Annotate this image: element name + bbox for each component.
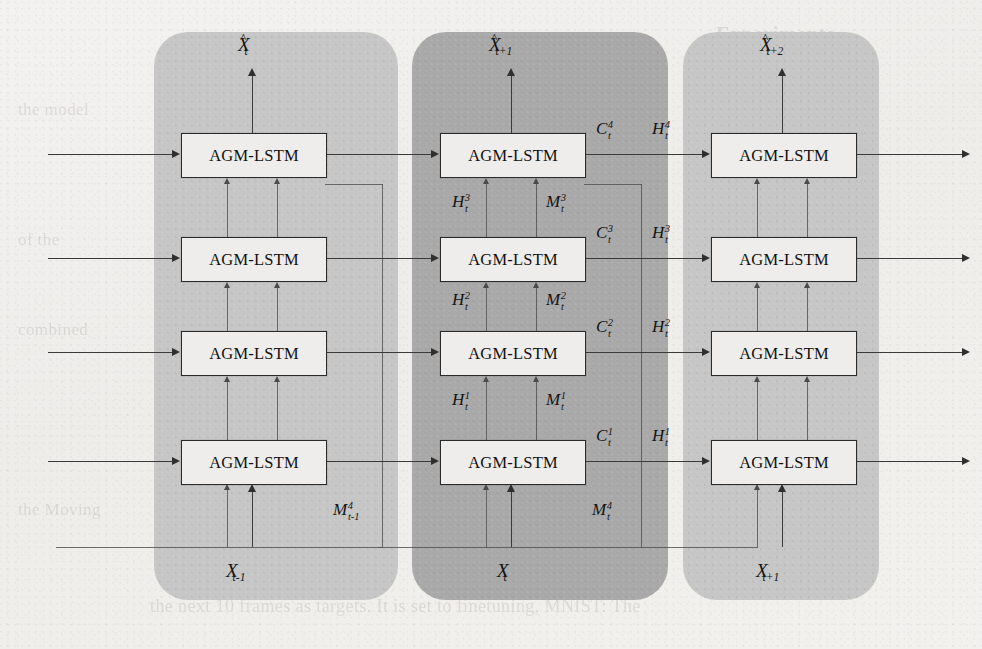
hidden-label-t-1: H1t (452, 390, 468, 412)
input-wire-layer-1 (48, 461, 174, 462)
output-wire-t-plus-2 (782, 72, 783, 133)
cell-t-layer-4[interactable]: AGM-LSTM (440, 133, 586, 178)
output-wire-l1-right (855, 461, 965, 462)
carry-wire-l2-p1-p2 (325, 352, 433, 353)
cell-t-plus-1-layer-1[interactable]: AGM-LSTM (711, 440, 857, 485)
m-route-up-t-plus-1 (757, 490, 758, 548)
arrowhead (431, 457, 439, 465)
output-label-t: ^Xt (238, 34, 248, 57)
cell-t-minus-1-layer-3[interactable]: AGM-LSTM (181, 237, 327, 282)
arrowhead (431, 150, 439, 158)
memory-label-t-1: M1t (546, 390, 564, 412)
cell-t-layer-3[interactable]: AGM-LSTM (440, 237, 586, 282)
h-link-1-2 (227, 382, 228, 440)
arrowhead (172, 348, 180, 356)
arrowhead (804, 178, 810, 184)
output-label-t-plus-1: ^Xt+1 (489, 34, 512, 57)
m-link-t-3-4 (536, 184, 537, 237)
arrowhead (804, 282, 810, 288)
input-label-t-minus-1: Xt-1 (226, 560, 245, 583)
cell-t-minus-1-layer-4[interactable]: AGM-LSTM (181, 133, 327, 178)
output-wire-t (252, 72, 253, 133)
arrowhead (754, 376, 760, 382)
arrowhead (224, 178, 230, 184)
arrowhead (483, 376, 489, 382)
memory-label-t-2: M2t (546, 290, 564, 312)
h-link-tp1-1-2 (757, 382, 758, 440)
m-link-tp1-3-4 (807, 184, 808, 237)
output-wire-l4-right (855, 154, 965, 155)
memory-label-t-4: M4t (592, 500, 610, 522)
cell-t-plus-1-layer-2[interactable]: AGM-LSTM (711, 331, 857, 376)
hidden-state-label-1: H1t (652, 426, 668, 448)
arrowhead (172, 254, 180, 262)
input-label-t: Xt (497, 560, 507, 583)
hidden-label-t-2: H2t (452, 290, 468, 312)
h-link-tp1-3-4 (757, 184, 758, 237)
input-wire-layer-3 (48, 258, 174, 259)
cell-t-minus-1-layer-1[interactable]: AGM-LSTM (181, 440, 327, 485)
m-link-t-1-2 (536, 382, 537, 440)
timestep-panel-t (412, 32, 668, 600)
arrowhead (507, 68, 515, 76)
arrowhead (274, 178, 280, 184)
memory-label-t-3: M3t (546, 192, 564, 214)
arrowhead (172, 457, 180, 465)
input-wire-t-plus-1 (782, 490, 783, 547)
m-route-bottom-t-minus-1 (56, 547, 383, 548)
arrowhead (431, 348, 439, 356)
m-link-tp1-2-3 (807, 288, 808, 331)
output-wire-l2-right (855, 352, 965, 353)
output-wire-l3-right (855, 258, 965, 259)
m-route-top-t (584, 184, 642, 185)
arrowhead (533, 376, 539, 382)
arrowhead (533, 282, 539, 288)
h-link-tp1-2-3 (757, 288, 758, 331)
hidden-state-label-4: H4t (652, 119, 668, 141)
carry-wire-l3-p2-p3 (584, 258, 704, 259)
output-label-t-plus-2: ^Xt+2 (760, 34, 783, 57)
arrowhead (224, 376, 230, 382)
memory-label-t-minus-1: M4t-1 (333, 500, 360, 522)
arrowhead (702, 254, 710, 262)
carry-wire-l1-p1-p2 (325, 461, 433, 462)
cell-t-plus-1-layer-3[interactable]: AGM-LSTM (711, 237, 857, 282)
h-link-t-2-3 (486, 288, 487, 331)
arrowhead (172, 150, 180, 158)
arrowhead (778, 68, 786, 76)
cell-t-layer-1[interactable]: AGM-LSTM (440, 440, 586, 485)
input-wire-t-minus-1-b (252, 490, 253, 547)
arrowhead (702, 150, 710, 158)
m-route-down-t (641, 184, 642, 548)
arrowhead (533, 178, 539, 184)
arrowhead (962, 150, 970, 158)
h-link-t-1-2 (486, 382, 487, 440)
cell-t-minus-1-layer-2[interactable]: AGM-LSTM (181, 331, 327, 376)
arrowhead (507, 484, 515, 492)
cell-t-layer-2[interactable]: AGM-LSTM (440, 331, 586, 376)
h-link-3-4 (227, 184, 228, 237)
arrowhead (248, 484, 256, 492)
timestep-panel-t-plus-1 (683, 32, 879, 600)
arrowhead (754, 282, 760, 288)
arrowhead (754, 178, 760, 184)
m-link-3-4 (277, 184, 278, 237)
arrowhead (702, 457, 710, 465)
input-label-t-plus-1: Xt+1 (756, 560, 779, 583)
arrowhead (962, 457, 970, 465)
m-link-t-2-3 (536, 288, 537, 331)
h-link-t-3-4 (486, 184, 487, 237)
cell-state-label-4: C4t (596, 119, 611, 141)
cell-t-plus-1-layer-4[interactable]: AGM-LSTM (711, 133, 857, 178)
m-link-tp1-1-2 (807, 382, 808, 440)
arrowhead (483, 282, 489, 288)
arrowhead (962, 254, 970, 262)
arrowhead (483, 178, 489, 184)
hidden-state-label-2: H2t (652, 317, 668, 339)
m-link-1-2 (277, 382, 278, 440)
input-wire-layer-2 (48, 352, 174, 353)
figure-canvas: Experiments the model in the sequence of… (0, 0, 982, 649)
carry-wire-l1-p2-p3 (584, 461, 704, 462)
hidden-label-t-3: H3t (452, 192, 468, 214)
arrowhead (224, 282, 230, 288)
